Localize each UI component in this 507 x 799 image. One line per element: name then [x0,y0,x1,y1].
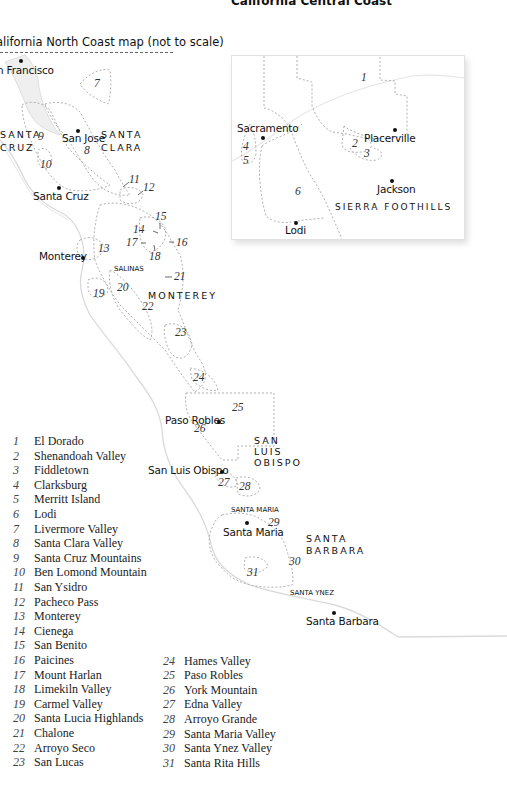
region-salinas: SALINAS [114,265,144,273]
region-santa-maria: SANTA MARIA [231,506,279,514]
region-number-3: 3 [364,147,370,159]
region-number-2: 2 [352,137,358,149]
county-santa-cruz-line1: SANTA [0,128,41,141]
city-san-jose: San Jose [62,132,105,144]
city-santa-cruz: Santa Cruz [33,190,88,202]
region-number-9: 9 [38,130,44,142]
region-number-24: 24 [193,371,205,383]
city-dot [245,521,249,525]
region-number-17: 17 [126,236,138,248]
region-santa-ynez: SANTA YNEZ [290,589,334,597]
region-number-16: 16 [176,236,188,248]
region-number-22: 22 [142,300,154,312]
region-number-1: 1 [361,71,367,83]
region-number-10: 10 [40,158,52,170]
county-santa-clara-line1: SANTA [101,128,142,141]
region-number-25: 25 [232,401,244,413]
region-sierra-foothills: SIERRA FOOTHILLS [335,201,452,214]
city-placerville: Placerville [364,132,415,144]
region-number-31: 31 [247,566,259,578]
city-lodi: Lodi [285,224,306,236]
county-santa-clara-line2: CLARA [101,141,142,154]
city-santa-barbara: Santa Barbara [306,615,379,627]
inset-map-sierra-foothills: 1 2 3 4 5 6 Placerville Sacramento Jacks… [231,55,465,240]
region-number-14: 14 [133,223,145,235]
region-number-8: 8 [84,144,90,156]
region-number-30: 30 [289,555,301,567]
region-number-11: 11 [129,173,140,185]
county-santa-cruz-line2: CRUZ [0,141,35,154]
region-number-4: 4 [243,140,249,152]
region-number-21: 21 [174,270,186,282]
city-sacramento: Sacramento [237,122,299,134]
city-san-luis-obispo: San Luis Obispo [148,464,229,476]
region-number-28: 28 [239,480,251,492]
region-number-29: 29 [268,516,280,528]
region-number-13: 13 [98,242,110,254]
county-monterey: MONTEREY [148,289,217,302]
city-monterey: Monterey [39,250,87,262]
county-slo-line3: OBISPO [254,456,302,469]
region-number-7: 7 [94,77,100,89]
city-jackson: Jackson [377,183,416,195]
region-number-27: 27 [218,476,230,488]
region-number-26: 26 [194,422,206,434]
region-number-6: 6 [295,185,301,197]
region-number-20: 20 [117,281,129,293]
county-sb-line2: BARBARA [306,544,365,557]
region-number-23: 23 [175,326,187,338]
leader-14 [153,231,158,233]
region-number-19: 19 [93,287,105,299]
region-number-18: 18 [149,250,161,262]
region-number-5: 5 [243,154,249,166]
city-dot [19,59,23,63]
city-san-francisco: n Francisco [0,64,54,76]
region-number-15: 15 [155,210,167,222]
region-number-12: 12 [143,181,155,193]
city-dot [261,136,265,140]
